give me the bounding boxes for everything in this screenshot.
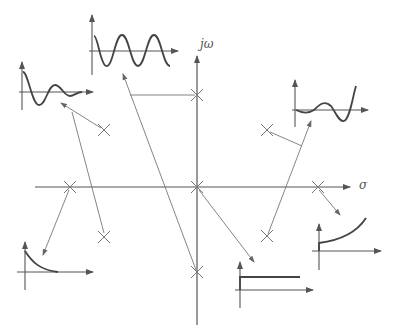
imaginary-axis-label: jω [200, 37, 214, 51]
response-sustained-oscillation [89, 15, 178, 75]
response-step [235, 262, 313, 308]
connector-origin [199, 190, 254, 262]
connector-lhp-lower [72, 112, 104, 233]
response-growing-exponential [312, 218, 381, 270]
connector-pos-real [319, 190, 340, 215]
pole-rhp-lower-icon [261, 230, 273, 242]
real-axis-label: σ [359, 178, 367, 192]
connector-rhp-upper [270, 132, 302, 146]
response-growing-oscillation [292, 80, 368, 127]
connector-lhp-upper [61, 103, 101, 128]
response-damped-oscillation [19, 62, 93, 110]
connector-rhp-lower [268, 121, 311, 234]
response-decaying-exponential [17, 242, 93, 290]
s-plane-diagram [0, 0, 393, 334]
pole-lhp-upper-icon [98, 124, 110, 136]
pole-rhp-upper-icon [261, 124, 273, 136]
connector-jw-lower [123, 74, 196, 270]
connector-neg-real [43, 190, 69, 255]
